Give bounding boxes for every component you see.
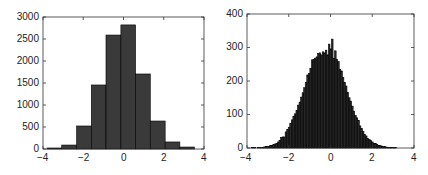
histogram-right: 400 300 200 100 0 −4 −2 0 2 4 <box>0 0 428 175</box>
x-tick-label: 2 <box>369 153 375 163</box>
x-tick-label: 0 <box>328 153 334 163</box>
y-tick-label: 100 <box>226 109 243 119</box>
x-tick-label: −4 <box>240 153 251 163</box>
y-tick-label: 200 <box>226 76 243 86</box>
histogram-right-plot <box>0 0 428 175</box>
x-tick-label: −2 <box>283 153 294 163</box>
x-tick-label: 4 <box>411 153 417 163</box>
bars <box>251 39 396 148</box>
y-tick-label: 400 <box>226 9 243 19</box>
y-tick-label: 300 <box>226 42 243 52</box>
